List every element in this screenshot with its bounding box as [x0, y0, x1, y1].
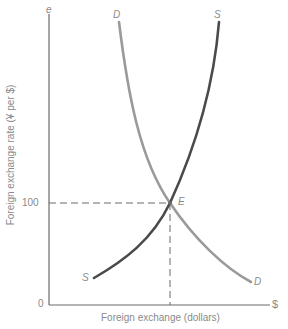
equilibrium-label: E — [178, 197, 185, 207]
y-axis-symbol: e — [46, 5, 52, 15]
equilibrium-point — [168, 201, 172, 205]
supply-top-label: S — [214, 10, 221, 20]
demand-curve — [119, 22, 251, 282]
demand-bottom-label: D — [254, 277, 261, 287]
supply-bottom-label: S — [82, 273, 89, 283]
tick-100-label: 100 — [22, 198, 39, 208]
x-axis-symbol: $ — [272, 299, 278, 310]
origin-label: 0 — [38, 299, 44, 309]
x-axis-title: Foreign exchange (dollars) — [101, 313, 220, 323]
y-axis-title: Foreign exchange rate (¥ per $) — [5, 85, 16, 226]
demand-top-label: D — [113, 10, 120, 20]
chart-canvas — [0, 0, 288, 329]
